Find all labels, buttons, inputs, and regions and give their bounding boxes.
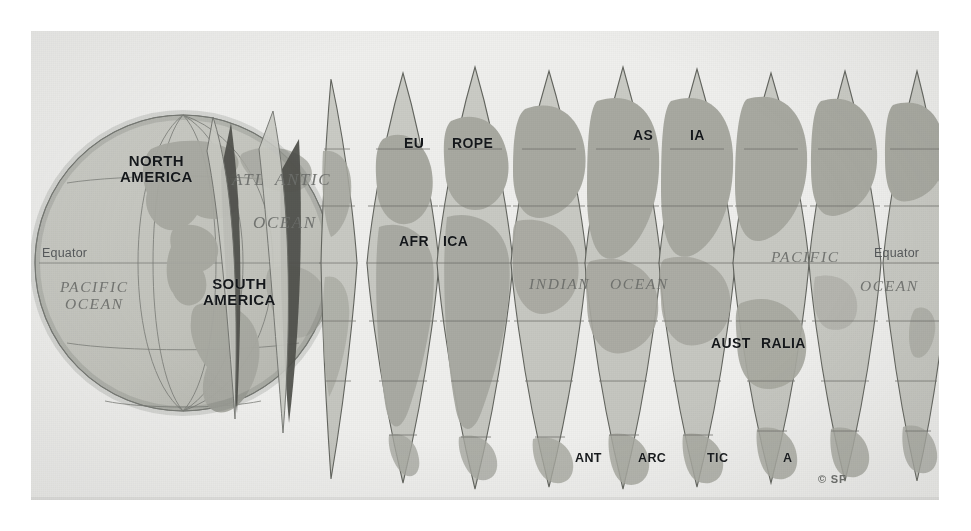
continent-label-as: AS <box>633 128 653 143</box>
label-north-america: NORTH AMERICA <box>120 153 193 184</box>
label-equator-right: Equator <box>874 246 919 260</box>
map-figure: NORTH AMERICA SOUTH AMERICA Equator PACI… <box>31 31 939 500</box>
continent-label-ant: ANT <box>575 452 602 465</box>
ocean-label-antic: ANTIC <box>275 171 331 189</box>
continent-label-ia: IA <box>690 128 705 143</box>
ocean-label-indian: INDIAN <box>529 276 590 293</box>
label-equator-left: Equator <box>42 246 87 260</box>
continent-label-tic: TIC <box>707 452 728 465</box>
continent-label-eu: EU <box>404 136 424 151</box>
ocean-label-pacific: PACIFIC <box>771 249 840 266</box>
continent-label-afr: AFR <box>399 234 429 249</box>
continent-label-a: A <box>783 452 792 465</box>
continent-label-aust: AUST <box>711 336 751 351</box>
copyright-mark: © SF <box>818 473 846 485</box>
ocean-label-atlantic-ocean: OCEAN <box>253 214 317 232</box>
ocean-label-indian-ocean: OCEAN <box>610 276 669 293</box>
label-south-america: SOUTH AMERICA <box>203 276 276 307</box>
continent-label-arc: ARC <box>638 452 666 465</box>
continent-label-rope: ROPE <box>452 136 493 151</box>
continent-label-ralia: RALIA <box>761 336 806 351</box>
ocean-label-atl: ATL <box>232 171 265 189</box>
continent-label-ica: ICA <box>443 234 468 249</box>
ocean-label-pacific-ocean: OCEAN <box>860 278 919 295</box>
screenshot-canvas: NORTH AMERICA SOUTH AMERICA Equator PACI… <box>0 0 971 531</box>
label-pacific-ocean-globe: PACIFIC OCEAN <box>60 279 129 312</box>
